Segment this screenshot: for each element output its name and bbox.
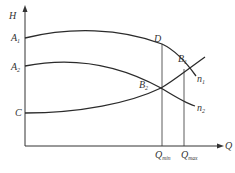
system-curve	[25, 57, 205, 113]
pump-curve-n1	[25, 31, 196, 76]
label-a2: A2	[10, 61, 20, 73]
label-n2: n2	[197, 102, 205, 114]
curves	[25, 31, 205, 113]
label-b1: B1	[178, 53, 187, 65]
x-axis-arrow-icon	[217, 144, 224, 149]
pump-curve-diagram: H Q A1 A2 C D B1 B2 n1 n2 Qmin Qmax	[0, 0, 235, 173]
y-axis-label: H	[8, 10, 17, 21]
label-d: D	[153, 33, 162, 44]
y-axis-arrow-icon	[23, 5, 28, 12]
label-qmin: Qmin	[155, 149, 171, 161]
label-c: C	[15, 107, 22, 118]
pump-curve-n2	[25, 62, 195, 106]
axes	[25, 10, 220, 146]
label-a1: A1	[10, 32, 20, 44]
x-axis-label: Q	[225, 140, 233, 151]
label-n1: n1	[197, 73, 205, 85]
label-qmax: Qmax	[181, 149, 198, 161]
